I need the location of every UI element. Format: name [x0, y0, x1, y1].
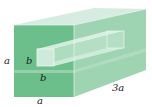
label-hole-height-b: b: [26, 56, 32, 66]
label-length-3a: 3a: [112, 83, 124, 93]
box-drawing: [0, 0, 152, 107]
label-height-a: a: [4, 56, 10, 66]
label-hole-width-b: b: [40, 73, 46, 83]
label-width-a: a: [37, 96, 43, 106]
hole-front-opening: [37, 49, 54, 66]
box-with-hole-diagram: a b b a 3a: [0, 0, 152, 107]
